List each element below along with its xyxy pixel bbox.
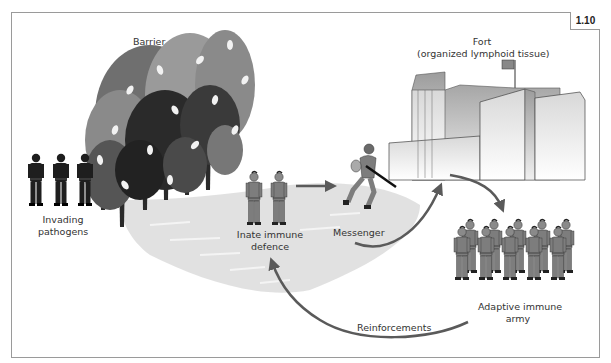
- adaptive-army: [454, 220, 574, 281]
- label-innate-defence: Inate immune defence: [236, 229, 304, 253]
- label-adaptive-line1: Adaptive immune: [478, 301, 558, 313]
- label-reinforcements: Reinforcements: [357, 322, 431, 334]
- label-adaptive-line2: army: [478, 313, 558, 325]
- label-fort-line2: (organized lymphoid tissue): [417, 48, 547, 60]
- label-fort-line1: Fort: [417, 36, 547, 48]
- label-invading-line2: pathogens: [38, 226, 88, 238]
- label-fort: Fort (organized lymphoid tissue): [417, 36, 547, 60]
- label-invading-line1: Invading: [38, 214, 88, 226]
- fort: [389, 60, 585, 180]
- label-invading-pathogens: Invading pathogens: [38, 214, 88, 238]
- label-innate-line1: Inate immune: [236, 229, 304, 241]
- label-innate-line2: defence: [236, 241, 304, 253]
- label-adaptive-army: Adaptive immune army: [478, 301, 558, 325]
- figure-number: 1.10: [570, 12, 600, 30]
- invading-pathogens: [28, 154, 93, 206]
- label-messenger: Messenger: [333, 227, 385, 239]
- label-barrier: Barrier: [133, 36, 165, 48]
